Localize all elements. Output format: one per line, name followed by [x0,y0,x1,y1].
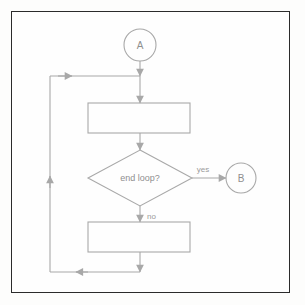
edge-label-no: no [147,212,156,221]
edge-label-yes: yes [197,165,209,174]
flowchart-page: A B end loop? yes no [0,0,305,305]
decision-label: end loop? [120,173,160,183]
flowchart-canvas: A B end loop? yes no [0,0,305,305]
process-box-2[interactable] [88,222,190,252]
connector-b-label: B [238,173,245,184]
process-box-1[interactable] [88,103,190,133]
connector-a-label: A [137,40,144,51]
